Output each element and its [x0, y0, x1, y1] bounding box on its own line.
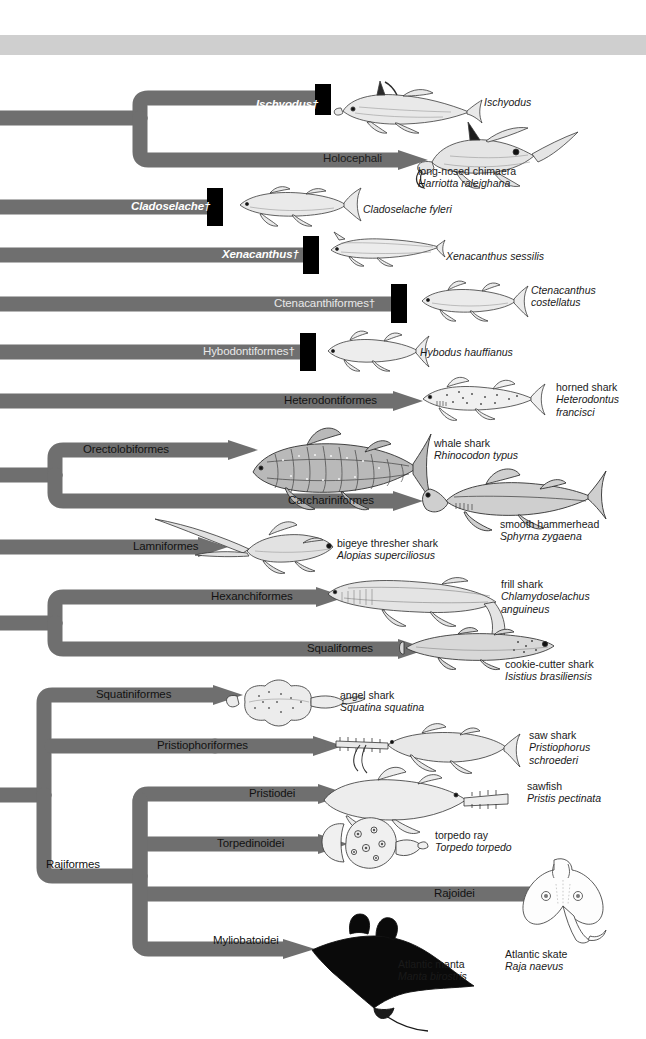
- clade-label-myliobatoidei[interactable]: Myliobatoidei: [213, 934, 279, 946]
- caption-horned-shark: horned shark Heterodontus francisci: [556, 381, 642, 418]
- caption-xenacanthus: Xenacanthus sessilis: [446, 250, 544, 262]
- cladogram-figure: .br{fill:none;stroke:#6f6f6f;stroke-widt…: [0, 0, 646, 1039]
- common-name: angel shark: [340, 689, 424, 701]
- clade-label-rajiformes[interactable]: Rajiformes: [46, 858, 100, 870]
- common-name: Atlantic skate: [505, 948, 567, 960]
- common-name: bigeye thresher shark: [337, 537, 438, 549]
- illustration-xenacanthus: [325, 229, 445, 271]
- caption-angel-shark: angel shark Squatina squatina: [340, 689, 424, 714]
- scientific-name: Harriotta raleighana: [418, 177, 516, 189]
- caption-atlantic-manta: Atlantic manta Manta birostris: [398, 958, 467, 983]
- caption-frill-shark: frill shark Chlamydoselachus anguineus: [501, 578, 605, 615]
- scientific-name: Ctenacanthus costellatus: [531, 284, 623, 309]
- common-name: frill shark: [501, 578, 605, 590]
- scientific-name: Pristiophorus schroederi: [529, 741, 613, 766]
- illustration-ctenacanthus: [416, 277, 528, 325]
- caption-atlantic-skate: Atlantic skate Raja naevus: [505, 948, 567, 973]
- common-name: smooth hammerhead: [500, 518, 599, 530]
- scientific-name: Hybodus hauffianus: [420, 346, 513, 358]
- illustration-horned-shark: [417, 373, 545, 425]
- common-name: torpedo ray: [435, 829, 512, 841]
- caption-hybodus: Hybodus hauffianus: [420, 346, 513, 358]
- clade-label-orectolobiformes[interactable]: Orectolobiformes: [83, 443, 169, 455]
- scientific-name: Manta birostris: [398, 970, 467, 982]
- scientific-name: Sphyrna zygaena: [500, 530, 599, 542]
- clade-label-ctenacanthiformes[interactable]: Ctenacanthiformes†: [274, 297, 375, 309]
- common-name: long-nosed chimaera: [418, 165, 516, 177]
- caption-long-nosed-chimaera: long-nosed chimaera Harriotta raleighana: [418, 165, 516, 190]
- scientific-name: Rhinocodon typus: [434, 449, 518, 461]
- caption-torpedo-ray: torpedo ray Torpedo torpedo: [435, 829, 512, 854]
- scientific-name: Pristis pectinata: [527, 792, 601, 804]
- scientific-name: Alopias superciliosus: [337, 549, 438, 561]
- extinct-bar-xenacanthus: [303, 236, 319, 274]
- illustration-cladoselache: [234, 181, 362, 231]
- clade-label-ischyodus[interactable]: Ischyodus†: [256, 98, 318, 110]
- extinct-bar-ctenacanthiformes: [391, 284, 407, 323]
- scientific-name: Chlamydoselachus anguineus: [501, 590, 605, 615]
- clade-label-torpedinoidei[interactable]: Torpedinoidei: [217, 837, 284, 849]
- caption-saw-shark: saw shark Pristiophorus schroederi: [529, 729, 613, 766]
- scientific-name: Ischyodus: [484, 96, 531, 108]
- caption-ctenacanthus: Ctenacanthus costellatus: [531, 284, 623, 309]
- clade-label-carchariniformes[interactable]: Carchariniformes: [288, 494, 374, 506]
- caption-whale-shark: whale shark Rhinocodon typus: [434, 437, 518, 462]
- clade-label-squatiniformes[interactable]: Squatiniformes: [96, 688, 171, 700]
- scientific-name: Xenacanthus sessilis: [446, 250, 544, 262]
- caption-cookie-cutter-shark: cookie-cutter shark Isistius brasiliensi…: [505, 658, 594, 683]
- caption-smooth-hammerhead: smooth hammerhead Sphyrna zygaena: [500, 518, 599, 543]
- clade-label-hexanchiformes[interactable]: Hexanchiformes: [211, 590, 293, 602]
- scientific-name: Torpedo torpedo: [435, 841, 512, 853]
- illustration-hybodus: [322, 327, 430, 373]
- caption-cladoselache: Cladoselache fyleri: [363, 203, 452, 215]
- illustration-atlantic-skate: [506, 854, 616, 948]
- scientific-name: Raja naevus: [505, 960, 567, 972]
- common-name: sawfish: [527, 780, 601, 792]
- common-name: saw shark: [529, 729, 613, 741]
- scientific-name: Heterodontus francisci: [556, 393, 642, 418]
- clade-label-hybodontiformes[interactable]: Hybodontiformes†: [203, 345, 295, 357]
- clade-label-heterodontiformes[interactable]: Heterodontiformes: [284, 394, 377, 406]
- clade-label-cladoselache[interactable]: Cladoselache†: [131, 200, 210, 212]
- clade-label-pristiophoriformes[interactable]: Pristiophoriformes: [157, 739, 248, 751]
- caption-ischyodus: Ischyodus: [484, 96, 531, 108]
- common-name: Atlantic manta: [398, 958, 467, 970]
- scientific-name: Isistius brasiliensis: [505, 670, 594, 682]
- clade-label-rajoidei[interactable]: Rajoidei: [434, 887, 475, 899]
- scientific-name: Squatina squatina: [340, 701, 424, 713]
- clade-label-squaliformes[interactable]: Squaliformes: [307, 642, 373, 654]
- common-name: horned shark: [556, 381, 642, 393]
- clade-label-holocephali[interactable]: Holocephali: [323, 152, 382, 164]
- clade-label-xenacanthus[interactable]: Xenacanthus†: [222, 248, 299, 260]
- common-name: cookie-cutter shark: [505, 658, 594, 670]
- clade-label-pristiodei[interactable]: Pristiodei: [249, 787, 295, 799]
- clade-label-lamniformes[interactable]: Lamniformes: [133, 540, 198, 552]
- caption-sawfish: sawfish Pristis pectinata: [527, 780, 601, 805]
- scientific-name: Cladoselache fyleri: [363, 203, 452, 215]
- common-name: whale shark: [434, 437, 518, 449]
- extinct-bar-hybodontiformes: [300, 333, 316, 371]
- illustration-torpedo-ray: [310, 812, 428, 874]
- caption-bigeye-thresher-shark: bigeye thresher shark Alopias supercilio…: [337, 537, 438, 562]
